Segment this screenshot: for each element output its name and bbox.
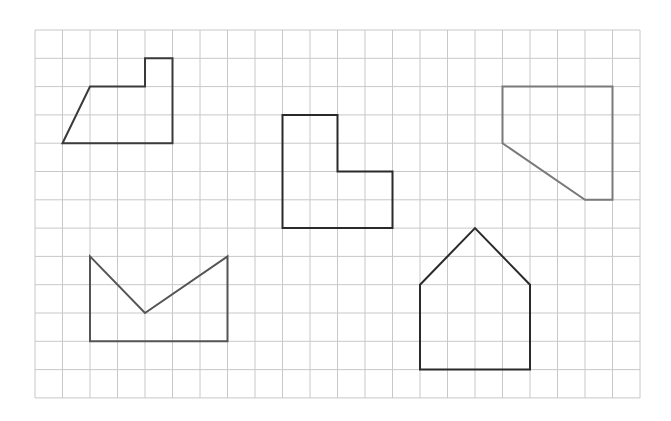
shape-bottom-left-notched (90, 256, 228, 341)
grid-lines (35, 30, 640, 398)
grid-diagram (0, 0, 671, 421)
